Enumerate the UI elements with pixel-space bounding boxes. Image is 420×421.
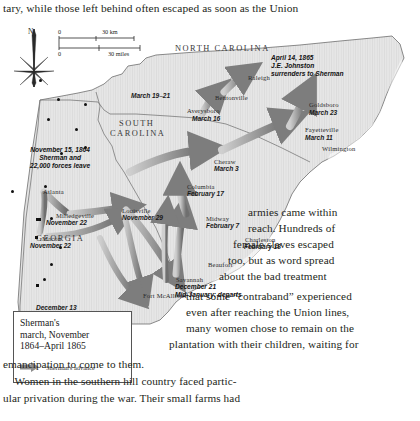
city-label: Fayetteville bbox=[305, 126, 339, 133]
city-marker-dot bbox=[11, 190, 14, 193]
city-label: Averysboro bbox=[187, 107, 220, 114]
body-text-wrapped-line: even after reaching the Union lines, bbox=[186, 306, 349, 318]
city-marker-dot bbox=[84, 103, 87, 106]
city-marker-dot bbox=[39, 79, 42, 82]
state-label: NORTH CAROLINA bbox=[175, 44, 270, 53]
city-marker-dot bbox=[43, 278, 46, 281]
annotation-line: April 14, 1865 bbox=[271, 54, 344, 62]
city-label: Raleigh bbox=[248, 74, 270, 81]
body-text-wrapped-line: about the bad treatment bbox=[219, 270, 327, 282]
body-text-wrapped-line: reach. Hundreds of bbox=[248, 222, 335, 234]
legend-title: Sherman's march, November 1864–April 186… bbox=[20, 317, 125, 352]
city-label: Wilmington bbox=[322, 145, 356, 152]
body-text-wrapped-line: plantation with their children, waiting … bbox=[169, 338, 358, 350]
map-annotation-sherman-departure: November 15, 1864Sherman and22,000 force… bbox=[30, 146, 90, 170]
date-label: March 3 bbox=[214, 165, 239, 172]
city-marker-dot bbox=[57, 98, 60, 101]
city-marker-dot bbox=[50, 263, 53, 266]
date-label: March 23 bbox=[309, 109, 337, 116]
page-root: tary, while those left behind often esca… bbox=[0, 0, 420, 421]
legend-title-line-1: Sherman's bbox=[20, 317, 125, 329]
legend-title-line-3: 1864–April 1865 bbox=[20, 340, 125, 352]
annotation-line: November 15, 1864 bbox=[30, 146, 90, 154]
annotation-line: Sherman and bbox=[30, 154, 90, 162]
body-text-top: tary, while those left behind often esca… bbox=[3, 2, 298, 14]
body-text-wrapped-line: female slaves escaped bbox=[233, 238, 334, 250]
map-annotation-johnston-surrender: April 14, 1865J.E. Johnstonsurrenders to… bbox=[271, 54, 344, 78]
city-label: Goldsboro bbox=[309, 101, 339, 108]
city-label: Bentonville bbox=[215, 94, 248, 101]
date-label: March 11 bbox=[305, 134, 333, 141]
body-text-wrapped-line: many women chose to remain on the bbox=[186, 322, 354, 334]
body-text-line: ular privation during the war. Their sma… bbox=[3, 392, 240, 404]
body-text-wrapped-line: too, but as word spread bbox=[228, 254, 334, 266]
map-legend: Sherman's march, November 1864–April 186… bbox=[13, 311, 132, 383]
city-marker-dot bbox=[47, 118, 50, 121]
date-label: November 22 bbox=[46, 219, 87, 226]
state-label: CAROLINA bbox=[110, 129, 165, 138]
body-text-line: emancipation to come to them. bbox=[3, 358, 144, 370]
date-label: November 22 bbox=[30, 242, 71, 249]
city-marker-dot bbox=[35, 236, 38, 239]
city-marker-dot bbox=[38, 218, 41, 221]
city-label: Atlanta bbox=[43, 188, 64, 195]
date-label: February 17 bbox=[187, 190, 224, 197]
date-label: March 16 bbox=[192, 115, 220, 122]
date-label: February 7 bbox=[206, 222, 239, 229]
annotation-line: J.E. Johnston bbox=[271, 62, 344, 70]
date-label: March 19–21 bbox=[131, 92, 170, 99]
body-text-wrapped-line: armies came within bbox=[248, 206, 337, 218]
date-label: November 29 bbox=[122, 214, 163, 221]
body-text-line: Women in the southern hill country faced… bbox=[3, 375, 237, 387]
legend-title-line-2: march, November bbox=[20, 329, 125, 341]
body-text-wrapped-line: that some “contraband” experienced bbox=[186, 290, 352, 302]
city-marker-dot bbox=[36, 284, 39, 287]
state-label: SOUTH bbox=[119, 119, 154, 128]
annotation-line: 22,000 forces leave bbox=[30, 162, 90, 170]
city-marker-dot bbox=[75, 128, 78, 131]
annotation-line: surrenders to Sherman bbox=[271, 70, 344, 78]
